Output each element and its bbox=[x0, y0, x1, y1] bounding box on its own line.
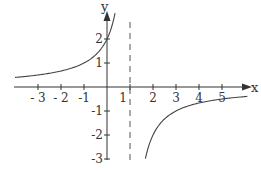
y-axis-label: y bbox=[100, 0, 109, 14]
x-tick-label: - 3 bbox=[30, 91, 46, 105]
axes bbox=[14, 11, 252, 160]
tick-labels: - 3- 2-11234521-1-2-3 bbox=[30, 32, 226, 166]
y-tick-label: -2 bbox=[91, 128, 103, 142]
function-graph: - 3- 2-11234521-1-2-3 x y bbox=[0, 0, 261, 171]
x-axis-label: x bbox=[251, 80, 259, 95]
x-tick-label: 5 bbox=[218, 91, 226, 105]
x-tick-label: - 2 bbox=[53, 91, 69, 105]
x-tick-label: 1 bbox=[119, 91, 127, 105]
x-tick-label: 3 bbox=[172, 91, 180, 105]
y-tick-label: 2 bbox=[95, 32, 103, 46]
curve-right-branch bbox=[145, 96, 247, 158]
y-tick-label: -3 bbox=[91, 152, 103, 166]
function-curves bbox=[15, 13, 247, 158]
y-tick-label: 1 bbox=[95, 56, 103, 70]
y-tick-label: -1 bbox=[91, 104, 103, 118]
x-tick-label: 2 bbox=[149, 91, 157, 105]
x-tick-label: -1 bbox=[78, 91, 90, 105]
